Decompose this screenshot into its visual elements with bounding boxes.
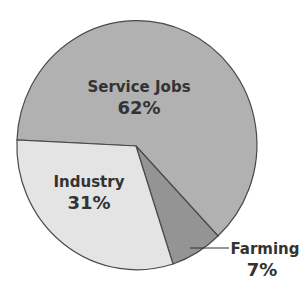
label-farming: Farming [230, 240, 299, 258]
pie-chart: Service Jobs 62% Industry 31% Farming 7% [0, 0, 308, 290]
value-service-jobs: 62% [117, 97, 160, 118]
label-service-jobs: Service Jobs [87, 78, 190, 96]
label-industry: Industry [54, 173, 125, 191]
value-farming: 7% [247, 259, 278, 280]
value-industry: 31% [67, 192, 110, 213]
